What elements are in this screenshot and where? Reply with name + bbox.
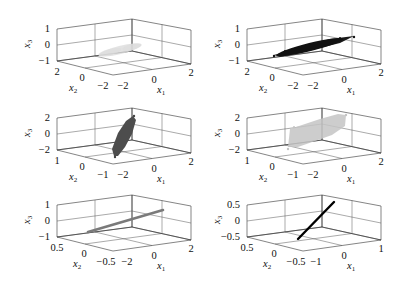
x2-axis-label: x2 xyxy=(258,171,268,184)
svg-text:2: 2 xyxy=(54,66,59,77)
x2-axis-label: x2 xyxy=(68,82,78,95)
svg-text:0: 0 xyxy=(151,163,156,174)
x3-axis-label: x3 xyxy=(21,128,34,138)
svg-text:−2: −2 xyxy=(117,169,128,180)
x3-axis-label: x3 xyxy=(21,39,34,49)
svg-text:−0.5: −0.5 xyxy=(96,256,115,267)
x1-axis-label: x1 xyxy=(156,173,166,186)
svg-text:0: 0 xyxy=(235,215,240,226)
x1-tick-labels: −2 0 2 xyxy=(307,156,383,180)
x2-tick-labels: 2 0 −2 xyxy=(54,66,108,91)
x2-axis-label: x2 xyxy=(72,258,82,271)
svg-text:2: 2 xyxy=(235,112,240,123)
svg-text:−2: −2 xyxy=(287,80,298,91)
x2-tick-labels: 1 0 −1 xyxy=(54,155,108,180)
x3-axis-label: x3 xyxy=(211,39,224,49)
panel-row3-left: 1 0 −1 0.5 0 −0.5 −2 0 2 x3 x2 x1 xyxy=(21,195,194,273)
svg-text:0: 0 xyxy=(341,74,346,85)
x1-tick-labels: −2 0 2 xyxy=(117,67,193,91)
svg-text:0: 0 xyxy=(151,74,156,85)
x2-axis-label: x2 xyxy=(258,82,268,95)
svg-text:0: 0 xyxy=(235,39,240,50)
svg-text:0: 0 xyxy=(45,128,50,139)
svg-text:0.5: 0.5 xyxy=(50,242,63,253)
svg-text:0.5: 0.5 xyxy=(227,199,240,210)
x2-axis-label: x2 xyxy=(68,171,78,184)
x3-tick-labels: 1 0 −1 xyxy=(39,199,50,242)
x3-axis-label: x3 xyxy=(211,215,224,225)
x2-tick-labels: 2 0 −2 xyxy=(244,66,298,91)
svg-text:2: 2 xyxy=(244,66,249,77)
panel-row2-right: 2 0 −2 1 0 −1 −2 0 2 x3 x2 x1 xyxy=(211,108,384,186)
svg-text:1: 1 xyxy=(45,199,50,210)
panel-row3-right: 0.5 0 −0.5 0.5 0 −0.5 −1 0 1 x3 x2 x1 xyxy=(211,195,384,273)
x3-tick-labels: 0.5 0 −0.5 xyxy=(221,199,240,242)
figure-canvas: 1 0 −1 2 0 −2 −2 0 2 x3 x2 x1 1 xyxy=(0,0,406,284)
svg-text:0: 0 xyxy=(341,250,346,261)
x1-axis-label: x1 xyxy=(346,173,356,186)
svg-text:−0.5: −0.5 xyxy=(286,256,305,267)
svg-text:−1: −1 xyxy=(229,55,240,66)
svg-text:2: 2 xyxy=(45,112,50,123)
svg-text:0: 0 xyxy=(269,161,274,172)
x1-axis-label: x1 xyxy=(346,84,356,97)
svg-text:−1: −1 xyxy=(39,231,50,242)
svg-text:0: 0 xyxy=(271,248,276,259)
axes-box xyxy=(57,195,191,251)
x1-axis-label: x1 xyxy=(346,260,356,273)
svg-text:0.5: 0.5 xyxy=(240,242,253,253)
svg-text:−1: −1 xyxy=(97,169,108,180)
x3-axis-label: x3 xyxy=(21,215,34,225)
x3-tick-labels: 2 0 −2 xyxy=(229,112,240,155)
svg-text:0: 0 xyxy=(45,215,50,226)
x2-axis-label: x2 xyxy=(262,258,272,271)
svg-text:0: 0 xyxy=(79,72,84,83)
svg-text:1: 1 xyxy=(378,243,383,254)
svg-text:1: 1 xyxy=(54,155,59,166)
x2-tick-labels: 0.5 0 −0.5 xyxy=(50,242,115,267)
panel-row1-left: 1 0 −1 2 0 −2 −2 0 2 x3 x2 x1 xyxy=(21,19,194,97)
svg-text:−1: −1 xyxy=(39,55,50,66)
svg-text:2: 2 xyxy=(378,156,383,167)
svg-text:1: 1 xyxy=(235,23,240,34)
svg-text:0: 0 xyxy=(45,39,50,50)
svg-text:2: 2 xyxy=(188,156,193,167)
x2-tick-labels: 1 0 −1 xyxy=(244,155,298,180)
x3-tick-labels: 1 0 −1 xyxy=(39,23,50,66)
panel-row2-left: 2 0 −2 1 0 −1 −2 0 2 x3 x2 x1 xyxy=(21,108,194,186)
x3-tick-labels: 2 0 −2 xyxy=(39,112,50,155)
svg-text:−2: −2 xyxy=(39,144,50,155)
scatter-cloud xyxy=(98,41,143,59)
svg-text:0: 0 xyxy=(79,161,84,172)
svg-text:1: 1 xyxy=(244,155,249,166)
x3-tick-labels: 1 0 −1 xyxy=(229,23,240,66)
panel-row1-right: 1 0 −1 2 0 −2 −2 0 2 x3 x2 x1 xyxy=(211,19,384,97)
svg-text:0: 0 xyxy=(341,163,346,174)
svg-text:2: 2 xyxy=(188,243,193,254)
svg-text:2: 2 xyxy=(188,67,193,78)
svg-text:−2: −2 xyxy=(307,80,318,91)
svg-text:−2: −2 xyxy=(307,169,318,180)
svg-text:0: 0 xyxy=(235,128,240,139)
svg-text:−2: −2 xyxy=(117,80,128,91)
x1-axis-label: x1 xyxy=(156,260,166,273)
svg-text:1: 1 xyxy=(45,23,50,34)
x1-tick-labels: −2 0 2 xyxy=(117,156,193,180)
svg-text:−0.5: −0.5 xyxy=(221,231,240,242)
svg-text:0: 0 xyxy=(151,250,156,261)
x1-axis-label: x1 xyxy=(156,84,166,97)
data-line xyxy=(88,210,163,232)
data-line xyxy=(298,202,334,239)
svg-text:−2: −2 xyxy=(121,256,132,267)
x2-tick-labels: 0.5 0 −0.5 xyxy=(240,242,305,267)
svg-text:−1: −1 xyxy=(287,169,298,180)
svg-text:−2: −2 xyxy=(229,144,240,155)
x3-axis-label: x3 xyxy=(211,128,224,138)
svg-text:−1: −1 xyxy=(310,256,321,267)
svg-text:2: 2 xyxy=(378,67,383,78)
scatter-cloud xyxy=(287,114,347,150)
svg-text:0: 0 xyxy=(269,72,274,83)
svg-text:0: 0 xyxy=(81,248,86,259)
x1-tick-labels: −2 0 2 xyxy=(307,67,383,91)
svg-text:−2: −2 xyxy=(97,80,108,91)
